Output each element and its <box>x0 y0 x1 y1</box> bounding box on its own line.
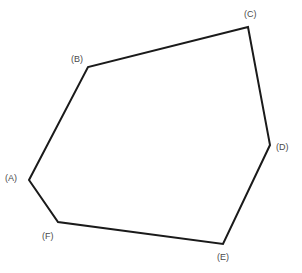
vertex-label-d: (D) <box>276 142 289 152</box>
vertex-label-e: (E) <box>217 252 229 262</box>
polygon-figure: (A)(B)(C)(D)(E)(F) <box>0 0 302 273</box>
vertex-label-f: (F) <box>42 231 54 241</box>
vertex-label-b: (B) <box>71 54 83 64</box>
vertex-label-c: (C) <box>244 9 257 19</box>
vertex-label-a: (A) <box>5 173 17 183</box>
hexagon-outline <box>29 27 270 244</box>
